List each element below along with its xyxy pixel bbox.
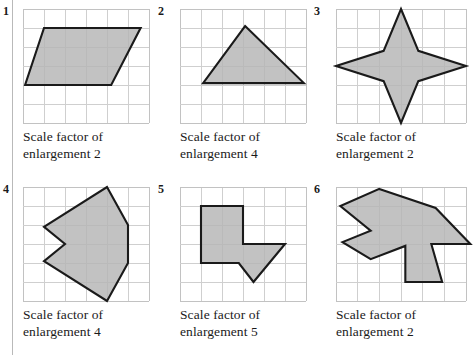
panel-number-5: 5 (158, 183, 164, 196)
panel-caption-2: Scale factor of enlargement 4 (180, 128, 320, 162)
worksheet-panel-6: 6 Scale factor of enlargement 2 (311, 178, 466, 355)
panel-number-4: 4 (3, 183, 9, 196)
shape-grid-5 (180, 187, 306, 301)
shape-grid-2 (180, 9, 306, 123)
panel-caption-3: Scale factor of enlargement 2 (336, 128, 476, 162)
panel-number-6: 6 (314, 183, 320, 196)
panel-number-1: 1 (3, 5, 9, 18)
shape-grid-6 (336, 187, 466, 301)
panel-number-2: 2 (158, 5, 164, 18)
worksheet-panel-2: 2 Scale factor of enlargement 4 (155, 0, 310, 177)
worksheet-panel-1: 1 Scale factor of enlargement 2 (0, 0, 155, 177)
panel-caption-5: Scale factor of enlargement 5 (180, 306, 320, 340)
caption-line-5a: Scale factor of (180, 306, 320, 323)
panel-caption-6: Scale factor of enlargement 2 (336, 306, 476, 340)
shape-polygon-double-arrow (340, 189, 470, 282)
caption-line-5b: enlargement 5 (180, 323, 320, 340)
panel-caption-4: Scale factor of enlargement 4 (23, 306, 163, 340)
caption-line-3a: Scale factor of (336, 128, 476, 145)
caption-line-1a: Scale factor of (23, 128, 163, 145)
caption-line-6a: Scale factor of (336, 306, 476, 323)
grid-svg-6 (336, 187, 466, 301)
shape-polygon-star (336, 9, 466, 123)
worksheet-panel-4: 4 Scale factor of enlargement 4 (0, 178, 155, 355)
shape-grid-3 (336, 9, 466, 123)
caption-line-2b: enlargement 4 (180, 145, 320, 162)
shape-polygon-triangle (203, 26, 304, 83)
shape-grid-1 (23, 9, 149, 123)
shape-polygon-parallelogram (25, 28, 141, 85)
grid-svg-1 (23, 9, 149, 123)
worksheet-panel-5: 5 Scale factor of enlargement 5 (155, 178, 310, 355)
shape-grid-4 (23, 187, 149, 301)
grid-svg-5 (180, 187, 306, 301)
grid-svg-3 (336, 9, 466, 123)
grid-svg-4 (23, 187, 149, 301)
caption-line-2a: Scale factor of (180, 128, 320, 145)
grid-svg-2 (180, 9, 306, 123)
panel-number-3: 3 (314, 5, 320, 18)
caption-line-4b: enlargement 4 (23, 323, 163, 340)
caption-line-1b: enlargement 2 (23, 145, 163, 162)
worksheet-panel-3: 3 Scale factor of enlargement 2 (311, 0, 466, 177)
caption-line-6b: enlargement 2 (336, 323, 476, 340)
panel-caption-1: Scale factor of enlargement 2 (23, 128, 163, 162)
caption-line-4a: Scale factor of (23, 306, 163, 323)
caption-line-3b: enlargement 2 (336, 145, 476, 162)
